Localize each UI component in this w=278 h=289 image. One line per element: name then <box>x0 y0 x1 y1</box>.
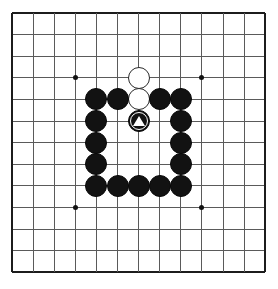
go-board[interactable] <box>0 0 278 289</box>
go-diagram-root <box>0 0 278 289</box>
board-gridline-vertical-0 <box>11 13 13 272</box>
board-gridline-vertical-10 <box>223 13 224 272</box>
black-stone-b13[interactable] <box>107 175 129 197</box>
black-stone-b4[interactable] <box>170 88 192 110</box>
board-gridline-vertical-1 <box>33 13 34 272</box>
star-point-1 <box>199 75 204 80</box>
black-stone-b15[interactable] <box>149 175 171 197</box>
triangle-mark-icon-0 <box>133 116 145 126</box>
black-stone-b5[interactable] <box>85 110 107 132</box>
board-gridline-vertical-2 <box>54 13 55 272</box>
black-stone-b1[interactable] <box>85 88 107 110</box>
board-gridline-vertical-7 <box>159 13 160 272</box>
black-stone-b8[interactable] <box>85 132 107 154</box>
board-gridline-vertical-11 <box>244 13 245 272</box>
board-gridline-vertical-5 <box>117 13 118 272</box>
board-gridline-vertical-6 <box>138 13 139 272</box>
white-stone-w1[interactable] <box>128 67 150 89</box>
black-stone-b7[interactable] <box>170 110 192 132</box>
white-stone-w2[interactable] <box>128 88 150 110</box>
board-gridline-vertical-9 <box>201 13 202 272</box>
star-point-0 <box>73 75 78 80</box>
star-point-3 <box>199 205 204 210</box>
black-stone-b12[interactable] <box>85 175 107 197</box>
black-stone-b2[interactable] <box>107 88 129 110</box>
black-stone-b9[interactable] <box>170 132 192 154</box>
black-stone-b16[interactable] <box>170 175 192 197</box>
board-gridline-vertical-3 <box>75 13 76 272</box>
black-stone-b3[interactable] <box>149 88 171 110</box>
star-point-2 <box>73 205 78 210</box>
black-stone-b14[interactable] <box>128 175 150 197</box>
board-gridline-vertical-12 <box>264 13 266 272</box>
black-stone-b10[interactable] <box>85 153 107 175</box>
black-stone-b11[interactable] <box>170 153 192 175</box>
